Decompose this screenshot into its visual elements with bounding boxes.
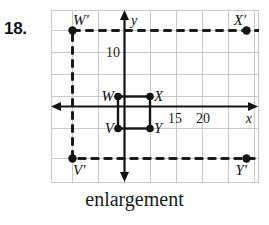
tick-label-15: 15 bbox=[168, 111, 182, 126]
figure-root: 18. bbox=[0, 0, 269, 225]
vertex-label-w-prime: W' bbox=[73, 12, 89, 28]
vertex-label-x: X bbox=[153, 88, 164, 104]
vertex-dot-v bbox=[114, 125, 122, 133]
x-axis-label: x bbox=[245, 111, 253, 126]
tick-label-10: 10 bbox=[106, 45, 120, 60]
coordinate-graph: W' X' Y' V' W X Y V y x 10 15 20 bbox=[51, 10, 259, 183]
vertex-dot-y bbox=[146, 125, 154, 133]
vertex-label-x-prime: X' bbox=[233, 12, 247, 28]
figure-caption: enlargement bbox=[0, 188, 269, 211]
vertex-dot-x bbox=[146, 93, 154, 101]
vertex-label-w: W bbox=[102, 88, 116, 104]
y-axis-label: y bbox=[129, 13, 138, 28]
vertex-label-v-prime: V' bbox=[73, 162, 86, 178]
vertex-label-y-prime: Y' bbox=[235, 162, 247, 178]
vertex-dot-w bbox=[114, 93, 122, 101]
problem-number: 18. bbox=[4, 19, 27, 39]
tick-label-20: 20 bbox=[196, 111, 210, 126]
graph-svg: W' X' Y' V' W X Y V y x 10 15 20 bbox=[51, 10, 259, 183]
